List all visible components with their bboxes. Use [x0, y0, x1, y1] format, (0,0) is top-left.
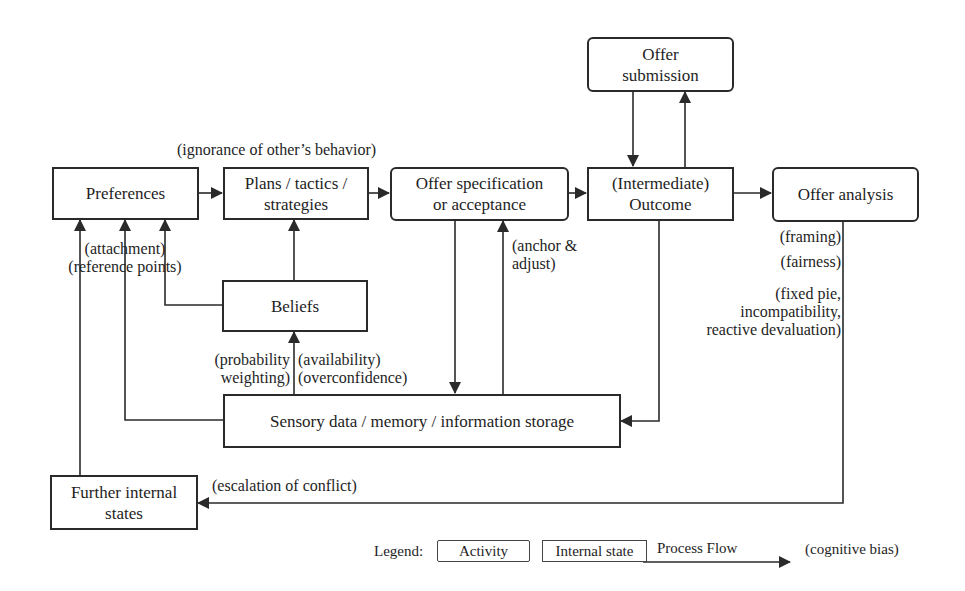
legend-title: Legend: [374, 543, 423, 560]
node-offer-specification: Offer specification or acceptance [390, 167, 569, 221]
negotiation-diagram: Preferences Plans / tactics / strategies… [0, 0, 965, 591]
bias-escalation-of-conflict: (escalation of conflict) [212, 477, 357, 495]
bias-probability-weighting: (probability weighting) [190, 351, 290, 387]
node-label: Offer submission [622, 44, 699, 86]
node-label: Further internal states [71, 482, 177, 524]
node-label: Sensory data / memory / information stor… [270, 411, 574, 432]
node-offer-analysis: Offer analysis [772, 167, 919, 222]
legend-internal-state: Internal state [542, 540, 647, 562]
bias-ignorance: (ignorance of other’s behavior) [177, 141, 376, 159]
node-label: Plans / tactics / strategies [245, 173, 347, 215]
node-beliefs: Beliefs [222, 280, 368, 332]
node-preferences: Preferences [52, 167, 199, 220]
bias-anchor-adjust: (anchor & adjust) [512, 237, 577, 273]
node-sensory-data: Sensory data / memory / information stor… [223, 394, 621, 448]
node-label: Offer analysis [798, 184, 894, 205]
bias-attachment-reference: (attachment) (reference points) [50, 240, 200, 276]
node-label: Beliefs [271, 296, 319, 317]
bias-fixed-pie: (fixed pie, incompatibility, reactive de… [640, 285, 841, 339]
node-intermediate-outcome: (Intermediate) Outcome [587, 167, 734, 221]
node-label: Offer specification or acceptance [416, 173, 544, 215]
bias-framing: (framing) [700, 228, 841, 246]
legend-cognitive-bias: (cognitive bias) [805, 541, 899, 558]
node-label: (Intermediate) Outcome [612, 173, 709, 215]
node-further-internal-states: Further internal states [50, 475, 198, 530]
bias-availability-overconfidence: (availability) (overconfidence) [298, 351, 407, 387]
legend-process-flow: Process Flow [657, 540, 737, 557]
node-label: Preferences [86, 183, 165, 204]
bias-fairness: (fairness) [700, 253, 841, 271]
legend-activity: Activity [437, 540, 530, 562]
node-plans-tactics-strategies: Plans / tactics / strategies [223, 167, 369, 220]
node-offer-submission: Offer submission [587, 37, 734, 92]
